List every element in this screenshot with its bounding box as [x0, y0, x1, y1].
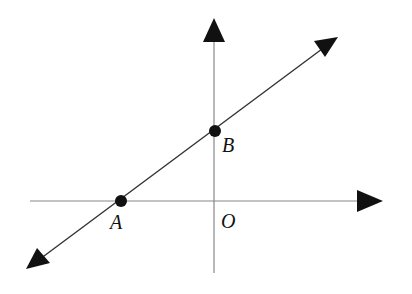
point-B — [209, 125, 221, 137]
line-arrow-down-left-icon — [26, 248, 50, 269]
label-A: A — [108, 211, 123, 233]
x-axis-arrow-icon — [357, 190, 383, 212]
y-axis-arrow-icon — [203, 18, 225, 42]
label-origin: O — [221, 210, 235, 232]
line-arrow-up-right-icon — [314, 37, 338, 57]
label-B: B — [222, 134, 234, 156]
point-A — [115, 195, 127, 207]
line-AB — [40, 49, 322, 259]
coordinate-diagram: A B O — [0, 0, 412, 294]
